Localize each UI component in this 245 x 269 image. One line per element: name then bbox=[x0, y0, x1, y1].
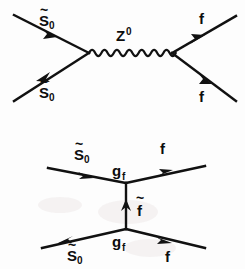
label2-incoming-upper-left: ~ S 0 bbox=[74, 136, 90, 165]
feynman-figure: ~ S 0 ~ S 0 Z 0 f f bbox=[0, 0, 245, 269]
label-outgoing-lower-right: f bbox=[199, 88, 205, 105]
scan-artifacts bbox=[38, 197, 176, 257]
subscript-bot-in-upper: 0 bbox=[84, 154, 90, 165]
propagator-z-boson-wavy bbox=[89, 50, 176, 56]
subscript-top-in-lower: 0 bbox=[49, 92, 55, 103]
label-text-top-in-lower: S bbox=[39, 84, 49, 101]
label-coupling-lower-vertex: g f bbox=[112, 233, 126, 253]
coupling-text-upper: g bbox=[112, 162, 121, 179]
coupling-text-lower: g bbox=[112, 233, 121, 250]
label-text-bot-in-lower: S bbox=[67, 247, 77, 264]
line-outgoing-upper-right bbox=[172, 16, 236, 53]
label-outgoing-upper-right: f bbox=[199, 10, 205, 27]
label-text-top-in-upper: S bbox=[39, 12, 49, 29]
superscript-z-boson: 0 bbox=[126, 26, 132, 37]
diagram-canvas: ~ S 0 ~ S 0 Z 0 f f bbox=[0, 0, 245, 269]
line-outgoing-lower-right bbox=[172, 53, 236, 101]
label2-incoming-lower-left: ~ S 0 bbox=[67, 237, 83, 266]
coupling-subscript-upper: f bbox=[122, 171, 126, 182]
subscript-bot-in-lower: 0 bbox=[77, 255, 83, 266]
label-incoming-lower-left: ~ S 0 bbox=[39, 74, 55, 103]
label-text-bot-in-upper: S bbox=[74, 146, 84, 163]
label-incoming-upper-left: ~ S 0 bbox=[39, 2, 55, 31]
label-coupling-upper-vertex: g f bbox=[112, 162, 126, 182]
label-propagator-z: Z 0 bbox=[116, 26, 132, 44]
diagram-s-channel-z: ~ S 0 ~ S 0 Z 0 f f bbox=[14, 2, 236, 105]
arrow-outgoing-upper-right bbox=[190, 34, 205, 44]
label-text-z-boson: Z bbox=[116, 27, 125, 44]
line2-outgoing-upper-right bbox=[126, 166, 205, 183]
subscript-top-in-upper: 0 bbox=[49, 20, 55, 31]
label2-outgoing-upper-right: f bbox=[160, 140, 166, 157]
